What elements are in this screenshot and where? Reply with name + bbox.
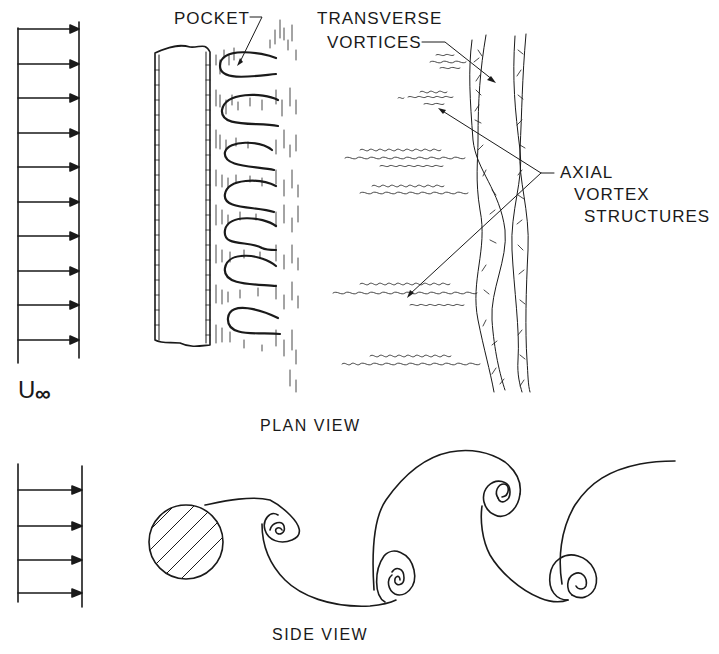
- side-freestream-arrows: [18, 486, 82, 597]
- vortex-street: [205, 450, 675, 606]
- axial-leader-line-2: [410, 173, 541, 294]
- pocket-7: [228, 308, 280, 334]
- plan-freestream-profile: U ∞: [18, 22, 79, 406]
- freestream-label-infinity: ∞: [35, 381, 51, 406]
- label-transverse-line1: TRANSVERSE: [317, 9, 442, 28]
- pockets: [220, 52, 280, 334]
- shear-layer-2: [481, 506, 568, 602]
- freestream-label-u: U: [18, 376, 35, 403]
- label-transverse-line2: VORTICES: [327, 33, 422, 52]
- label-axial-line2: VORTEX: [574, 185, 650, 204]
- pocket-4: [225, 181, 276, 212]
- pocket-3: [225, 143, 274, 170]
- label-pocket: POCKET: [174, 9, 250, 28]
- diagram-canvas: U ∞: [0, 0, 719, 654]
- vortex-4: [550, 555, 597, 600]
- label-axial-line1: AXIAL: [560, 163, 613, 182]
- pocket-5: [225, 218, 276, 250]
- plan-view-caption: PLAN VIEW: [260, 417, 361, 434]
- vortex-3: [484, 481, 520, 516]
- upper-arc-2: [560, 461, 675, 584]
- axial-arrowhead-1: [438, 108, 446, 114]
- side-freestream-profile: [18, 464, 82, 607]
- shear-layer-1: [262, 524, 396, 606]
- cylinder-cross-section: [140, 490, 240, 595]
- label-axial-line3: STRUCTURES: [584, 207, 710, 226]
- vortex-diagram: U ∞: [0, 0, 719, 654]
- pocket-1: [220, 52, 276, 77]
- freestream-arrows: [18, 25, 79, 344]
- side-view: SIDE VIEW: [18, 450, 675, 643]
- plan-view: U ∞: [18, 9, 710, 434]
- axial-vortex-streaks: [333, 54, 480, 364]
- vortex-1: [205, 498, 299, 542]
- axial-leader-line-1: [441, 110, 554, 173]
- pocket-arrowhead: [237, 58, 243, 66]
- pocket-6: [225, 256, 276, 286]
- cylinder-plan: [155, 46, 210, 347]
- transverse-arrowhead: [487, 76, 496, 83]
- transverse-vortex-bands: [470, 34, 530, 392]
- side-view-caption: SIDE VIEW: [272, 626, 368, 643]
